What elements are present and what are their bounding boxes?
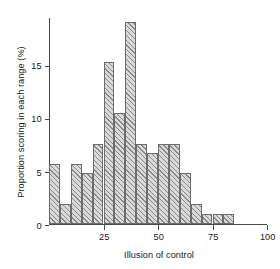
x-tick: 50	[158, 225, 159, 230]
y-tick-label: 10	[31, 114, 41, 124]
y-tick: 0	[45, 225, 50, 226]
histogram-bar	[125, 22, 136, 225]
y-tick-label: 5	[36, 168, 41, 178]
y-tick: 15	[45, 66, 50, 67]
histogram-bar	[136, 144, 147, 225]
y-tick-mark	[45, 119, 50, 120]
x-axis-label: Illusion of control	[48, 250, 270, 260]
histogram-bar	[71, 164, 82, 225]
histogram-bar	[104, 62, 115, 224]
y-tick-mark	[45, 225, 50, 226]
histogram-bar	[213, 214, 224, 225]
x-tick-mark	[213, 225, 214, 230]
histogram-bar	[202, 214, 213, 225]
x-tick-mark	[104, 225, 105, 230]
histogram-bar	[223, 214, 234, 225]
histogram-bar	[169, 144, 180, 225]
x-tick-mark	[158, 225, 159, 230]
histogram-bar	[60, 204, 71, 224]
histogram-bar	[191, 204, 202, 224]
x-tick-mark	[267, 225, 268, 230]
histogram-bar	[147, 153, 158, 224]
histogram-bar	[49, 164, 60, 225]
plot-area: 051015 255075100	[49, 18, 267, 225]
y-tick-mark	[45, 66, 50, 67]
x-tick-label: 50	[154, 232, 164, 242]
histogram-figure: Proportion scoring in each range (%) 051…	[0, 0, 280, 269]
histogram-bar	[180, 173, 191, 224]
histogram-bar	[158, 144, 169, 225]
x-tick-label: 25	[99, 232, 109, 242]
x-tick-label: 100	[260, 232, 275, 242]
histogram-bar	[114, 113, 125, 224]
x-tick: 100	[267, 225, 268, 230]
y-axis-label: Proportion scoring in each range (%)	[14, 22, 28, 222]
y-tick: 10	[45, 119, 50, 120]
histogram-bar	[82, 173, 93, 224]
histogram-bar	[93, 144, 104, 225]
y-tick-label: 0	[36, 221, 41, 231]
x-tick: 25	[104, 225, 105, 230]
x-tick: 75	[213, 225, 214, 230]
y-tick-label: 15	[31, 61, 41, 71]
x-tick-label: 75	[208, 232, 218, 242]
